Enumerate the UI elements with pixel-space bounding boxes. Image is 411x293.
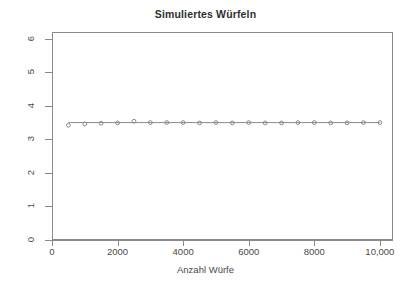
y-axis-tick-mark (45, 139, 52, 140)
data-point (66, 123, 70, 127)
chart-figure: Simuliertes Würfeln 0123456 020004000600… (0, 0, 411, 293)
x-axis-tick-label: 0 (22, 246, 82, 257)
x-axis-tick-label: 2000 (88, 246, 148, 257)
x-axis-tick-label: 8000 (284, 246, 344, 257)
y-axis-tick-mark (45, 72, 52, 73)
y-axis-tick-mark (45, 206, 52, 207)
data-point-markers (66, 119, 381, 127)
chart-title: Simuliertes Würfeln (0, 8, 411, 20)
x-axis-tick-label: 6000 (219, 246, 279, 257)
y-axis-tick-label: 5 (25, 64, 36, 80)
x-axis-line (52, 240, 393, 241)
y-axis-tick-label: 3 (25, 131, 36, 147)
x-axis-tick-label: 10,000 (350, 246, 410, 257)
y-axis-tick-mark (45, 39, 52, 40)
plot-area (52, 32, 393, 240)
y-axis-tick-label: 4 (25, 97, 36, 113)
data-layer (52, 32, 393, 240)
x-axis-tick-label: 4000 (153, 246, 213, 257)
y-axis-tick-label: 6 (25, 30, 36, 46)
y-axis-tick-label: 1 (25, 198, 36, 214)
data-point (99, 121, 103, 125)
y-axis-tick-mark (45, 240, 52, 241)
y-axis-tick-mark (45, 106, 52, 107)
y-axis-tick-label: 2 (25, 164, 36, 180)
y-axis-tick-mark (45, 173, 52, 174)
x-axis-title: Anzahl Würfe (0, 264, 411, 275)
